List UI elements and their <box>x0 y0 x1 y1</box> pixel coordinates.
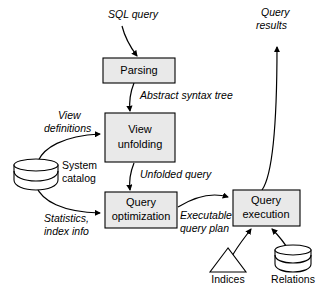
process-label-query-optimization-line1: Query <box>126 196 156 208</box>
data-store-label-relations: Relations <box>271 273 315 285</box>
edge-indices-to-query-execution <box>231 229 251 258</box>
flow-label-unfolded-query: Unfolded query <box>140 168 212 180</box>
edge-parsing-to-view-unfolding <box>130 83 134 111</box>
data-store-label-system-catalog-line1: System <box>62 159 97 171</box>
edge-query-optimization-to-query-execution <box>178 195 228 207</box>
process-label-view-unfolding-line1: View <box>128 123 152 135</box>
flow-label-sql-query: SQL query <box>108 8 159 20</box>
process-label-query-execution-line1: Query <box>251 194 281 206</box>
system-catalog-cylinder-top <box>14 159 58 171</box>
data-store-label-indices: Indices <box>211 273 244 285</box>
flow-label-statistics-index-info-line2: index info <box>44 225 89 237</box>
edge-view-unfolding-to-query-optimization <box>130 163 134 190</box>
flow-label-query-results-line1: Query <box>261 6 290 18</box>
flow-label-executable-query-plan-line1: Executable <box>180 209 232 221</box>
flow-label-view-definitions-line1: View <box>58 109 82 121</box>
edge-sql-query-to-parsing <box>122 26 137 56</box>
process-label-query-execution-line2: execution <box>242 208 289 220</box>
flow-label-statistics-index-info-line1: Statistics, <box>44 212 89 224</box>
flow-label-abstract-syntax-tree: Abstract syntax tree <box>139 89 233 101</box>
process-label-parsing: Parsing <box>120 64 157 76</box>
edge-system-catalog-to-query-optimization <box>36 186 100 213</box>
relations-cylinder-top <box>275 245 311 255</box>
diagram-canvas: Parsing View unfolding Query optimizatio… <box>0 0 330 291</box>
data-store-indices-triangle[interactable] <box>210 248 246 272</box>
edge-system-catalog-to-view-unfolding <box>38 134 100 161</box>
query-processing-diagram: Parsing View unfolding Query optimizatio… <box>0 0 330 291</box>
flow-label-executable-query-plan-line2: query plan <box>180 222 229 234</box>
flow-label-query-results-line2: results <box>256 19 288 31</box>
data-store-relations[interactable] <box>275 245 311 272</box>
flow-label-view-definitions-line2: definitions <box>44 122 92 134</box>
process-label-query-optimization-line2: optimization <box>112 210 171 222</box>
process-label-view-unfolding-line2: unfolding <box>118 138 163 150</box>
edge-query-execution-to-query-results <box>262 47 277 190</box>
data-store-label-system-catalog-line2: catalog <box>62 172 96 184</box>
data-store-system-catalog[interactable] <box>14 159 58 190</box>
